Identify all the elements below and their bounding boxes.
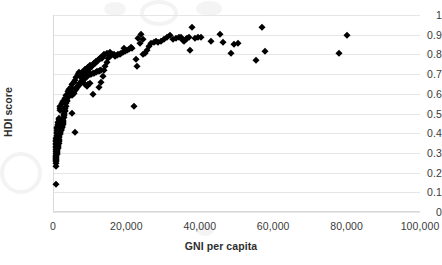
watermark-blob <box>196 1 222 16</box>
x-axis-title: GNI per capita <box>0 240 442 252</box>
data-point <box>187 47 193 53</box>
gridline <box>53 74 420 75</box>
gridline <box>53 212 420 213</box>
data-point <box>133 56 139 62</box>
x-tick-label: 100,000 <box>401 220 440 232</box>
y-tick-label: 0.1 <box>395 186 442 198</box>
data-point <box>72 129 78 135</box>
x-tick-label: 20,000 <box>110 220 143 232</box>
y-tick-label: 0.3 <box>395 147 442 159</box>
data-point <box>220 39 226 45</box>
y-tick-label: 1 <box>395 9 442 21</box>
data-point <box>253 56 259 62</box>
plot-area <box>53 15 420 212</box>
x-tick-label: 60,000 <box>257 220 290 232</box>
data-point <box>336 50 342 56</box>
y-tick-label: 0.2 <box>395 167 442 179</box>
watermark-blob <box>104 2 126 16</box>
data-point <box>217 30 223 36</box>
data-point <box>188 24 194 30</box>
y-tick-label: 0.5 <box>395 108 442 120</box>
gridline <box>53 133 420 134</box>
data-point <box>208 38 214 44</box>
data-point <box>130 102 136 108</box>
data-point <box>235 40 241 46</box>
gridline <box>53 114 420 115</box>
gridline <box>53 94 420 95</box>
x-tick-label: 0 <box>50 220 56 232</box>
y-tick-label: 0.6 <box>395 88 442 100</box>
gridline <box>53 173 420 174</box>
gridline <box>53 35 420 36</box>
y-tick-label: 0.8 <box>395 48 442 60</box>
gridline <box>53 192 420 193</box>
y-tick-label: 0 <box>395 206 442 218</box>
data-point <box>134 63 140 69</box>
chart-figure: 00.10.20.30.40.50.60.70.80.91 020,00040,… <box>0 0 442 265</box>
gridline <box>53 15 420 16</box>
x-tick-label: 80,000 <box>330 220 363 232</box>
y-tick-label: 0.7 <box>395 68 442 80</box>
y-tick-label: 0.9 <box>395 29 442 41</box>
y-tick-label: 0.4 <box>395 127 442 139</box>
gridline <box>53 153 420 154</box>
data-point <box>227 50 233 56</box>
y-axis-title: HDI score <box>2 82 14 142</box>
data-point <box>344 32 350 38</box>
data-point <box>90 91 96 97</box>
data-point <box>69 109 75 115</box>
x-axis-line <box>53 211 420 212</box>
watermark-blob <box>0 152 42 194</box>
data-point <box>259 24 265 30</box>
x-tick-label: 40,000 <box>183 220 216 232</box>
